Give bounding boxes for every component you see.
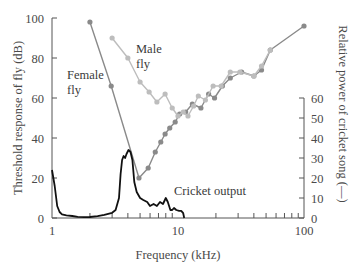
cricket-output-annotation: Cricket output [174,184,246,198]
male-fly-point [154,99,159,104]
female-fly-point [136,175,141,180]
male-fly-point [175,113,180,118]
right-axis-tick-label: 0 [311,212,317,226]
male-fly-point [137,79,142,84]
female-fly-point [87,19,92,24]
labels-layer: 0204060801001101000102030405060Frequency… [11,12,350,263]
x-axis-title: Frequency (kHz) [135,248,220,262]
female-fly-point [153,149,158,154]
left-axis-tick-label: 0 [38,212,44,226]
female-fly-point [212,95,217,100]
male-fly-point [163,91,168,96]
female-fly-point [173,119,178,124]
female-fly-point [198,105,203,110]
male-fly-point [196,93,201,98]
chart: 0204060801001101000102030405060Frequency… [0,0,356,268]
right-axis-tick-label: 40 [311,132,324,146]
male-fly-point [181,109,186,114]
left-axis-title: Threshold response of fly (dB) [11,41,25,195]
left-axis-tick-label: 40 [32,132,45,146]
female-fly-point [163,131,168,136]
cricket-output-line [52,150,184,218]
female-fly-point [158,139,163,144]
left-axis-tick-label: 60 [32,92,45,106]
male-fly-point [110,35,115,40]
male-fly-point [237,69,242,74]
male-fly-annotation-line1: Male [136,42,162,56]
left-axis-tick-label: 20 [32,172,45,186]
right-axis-tick-label: 60 [311,92,324,106]
female-fly-point [167,125,172,130]
male-fly-point [170,105,175,110]
female-fly-annotation-line1: Female [67,68,104,82]
left-axis-tick-label: 100 [25,12,44,26]
female-fly-annotation-line2: fly [67,83,82,97]
male-fly-point [259,63,264,68]
female-fly-point [146,165,151,170]
x-axis-tick-label: 1 [49,224,55,238]
left-axis-tick-label: 80 [32,52,45,66]
x-axis-tick-label: 10 [172,224,185,238]
female-fly-point [109,83,114,88]
male-fly-point [203,97,208,102]
male-fly-point [125,55,130,60]
right-axis-tick-label: 20 [311,172,324,186]
female-fly-point [228,75,233,80]
male-fly-point [219,83,224,88]
right-axis-tick-label: 10 [311,192,324,206]
male-fly-point [228,69,233,74]
female-fly-point [301,23,306,28]
male-fly-point [268,47,273,52]
male-fly-point [147,89,152,94]
male-fly-point [211,83,216,88]
right-axis-title: Relative power of cricket song (—) [336,25,350,202]
right-axis-tick-label: 30 [311,152,324,166]
male-fly-point [185,113,190,118]
x-axis-tick-label: 100 [295,224,314,238]
male-fly-point [251,73,256,78]
male-fly-annotation-line2: fly [136,57,151,71]
male-fly-point [191,103,196,108]
right-axis-tick-label: 50 [311,112,324,126]
